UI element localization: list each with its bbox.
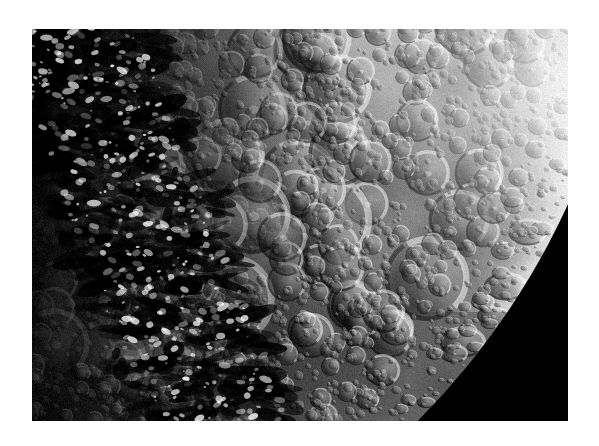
planetary-surface-photo <box>32 29 568 421</box>
photograph-frame <box>32 29 568 421</box>
photo-page: cratered planetary surface Sunlit cresce… <box>0 0 599 446</box>
